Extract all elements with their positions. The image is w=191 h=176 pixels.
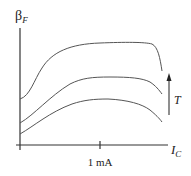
temperature-label: T [174, 93, 182, 107]
x-tick-label: 1 mA [88, 156, 113, 168]
arrow-head-icon [167, 73, 172, 81]
x-axis-label: IC [170, 142, 182, 159]
curve-low-t [20, 99, 162, 134]
y-axis-label: βF [15, 8, 28, 25]
beta-vs-ic-chart: βF IC 1 mA T [0, 0, 191, 176]
curve-high-t [20, 42, 162, 99]
